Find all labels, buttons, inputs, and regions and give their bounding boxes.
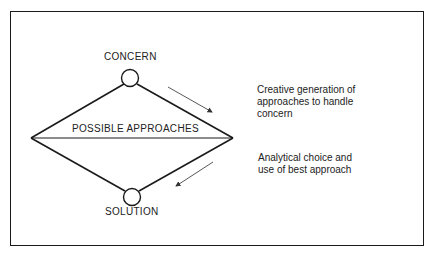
divergent-arrow-icon: [168, 87, 212, 112]
divergent-annotation-line: approaches to handle: [257, 96, 355, 108]
diamond-diagram: [0, 0, 435, 256]
convergent-annotation: Analytical choice and use of best approa…: [258, 152, 352, 176]
edge-bottom-left: [31, 138, 125, 191]
convergent-arrow-icon: [176, 162, 213, 186]
concern-node-circle: [122, 70, 139, 87]
concern-label: CONCERN: [104, 51, 157, 62]
divergent-annotation-line: Creative generation of: [257, 84, 355, 96]
edge-bottom-right: [139, 138, 233, 191]
convergent-annotation-line: use of best approach: [258, 164, 352, 176]
divergent-annotation: Creative generation of approaches to han…: [257, 84, 355, 120]
solution-label: SOLUTION: [105, 206, 159, 217]
convergent-annotation-line: Analytical choice and: [258, 152, 352, 164]
solution-node-circle: [124, 189, 141, 206]
divergent-annotation-line: concern: [257, 108, 355, 120]
possible-approaches-label: POSSIBLE APPROACHES: [72, 123, 199, 134]
